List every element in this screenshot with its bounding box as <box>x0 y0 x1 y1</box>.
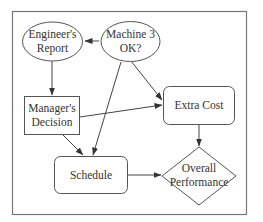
node-label-line2: Report <box>37 42 69 55</box>
node-label-line2: OK? <box>120 42 142 54</box>
node-label-line1: Machine 3 <box>106 28 155 40</box>
influence-diagram: Engineer's Report Machine 3 OK? Manager'… <box>0 0 263 222</box>
node-label-line1: Overall <box>182 162 216 174</box>
node-label-line1: Engineer's <box>28 28 77 41</box>
node-label-line2: Performance <box>170 176 229 188</box>
node-label-line2: Decision <box>32 116 73 128</box>
node-extra-cost: Extra Cost <box>164 87 235 125</box>
node-schedule: Schedule <box>55 157 128 194</box>
node-label: Schedule <box>70 169 112 181</box>
node-engineers-report: Engineer's Report <box>23 22 83 61</box>
node-label: Extra Cost <box>175 99 225 111</box>
node-managers-decision: Manager's Decision <box>25 97 80 135</box>
node-label-line1: Manager's <box>28 102 76 115</box>
node-machine-3-ok: Machine 3 OK? <box>101 22 160 62</box>
